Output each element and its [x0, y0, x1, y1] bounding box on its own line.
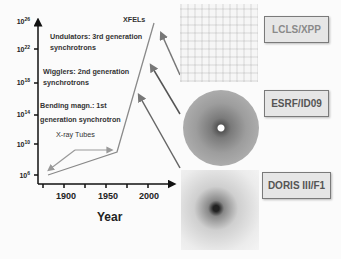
source-label-lcls-xpp: LCLS/XPP — [264, 16, 329, 43]
arrow-lcls-to-curve — [162, 35, 180, 75]
y-tick-1e18: 1018 — [4, 77, 30, 86]
x-tick-1900: 1900 — [56, 191, 76, 201]
annotation-wigglers-line1: Wigglers: 2nd generation — [43, 66, 129, 77]
x-axis-label: Year — [97, 210, 122, 224]
source-label-text: LCLS/XPP — [272, 24, 321, 35]
annotation-bending-line2: generation synchrotron — [40, 113, 121, 127]
arrow-esrf-to-curve — [152, 67, 180, 114]
annotation-undulators-line2: synchrotrons — [50, 42, 142, 53]
lcls-diffraction-pattern — [180, 4, 258, 82]
tick-exponent: 18 — [24, 77, 30, 83]
source-label-text: DORIS III/F1 — [268, 180, 325, 191]
y-tick-1e6: 106 — [4, 170, 30, 179]
x-axis — [38, 184, 172, 188]
annotation-undulators-line1: Undulators: 3rd generation — [50, 31, 142, 42]
y-tick-1e14: 1014 — [4, 109, 30, 118]
y-tick-1e10: 1010 — [4, 139, 30, 148]
esrf-diffraction-pattern — [183, 90, 259, 166]
tick-exponent: 14 — [24, 109, 30, 115]
arrow-doris-to-curve — [140, 97, 180, 168]
x-tick-2000: 2000 — [139, 191, 159, 201]
doris-diffraction-pattern — [181, 170, 259, 250]
annotation-wigglers-line2: synchrotrons — [43, 77, 129, 88]
annotation-wigglers: Wigglers: 2nd generation synchrotrons — [43, 66, 129, 88]
annotation-undulators: Undulators: 3rd generation synchrotrons — [50, 31, 142, 53]
y-tick-1e26: 1026 — [4, 16, 30, 25]
tick-exponent: 6 — [27, 170, 30, 176]
source-label-esrf-id09: ESRF/ID09 — [264, 90, 329, 117]
y-axis — [34, 22, 38, 184]
x-tick-1950: 1950 — [98, 191, 118, 201]
annotation-xfels: XFELs — [123, 14, 145, 25]
y-tick-1e22: 1022 — [4, 44, 30, 53]
source-label-doris-iii-f1: DORIS III/F1 — [262, 172, 331, 199]
tick-exponent: 26 — [24, 16, 30, 22]
annotation-bending-magnets: Bending magn.: 1st generation synchrotro… — [40, 99, 121, 127]
tick-exponent: 22 — [24, 44, 30, 50]
annotation-xray-tubes: X-ray Tubes — [56, 129, 95, 140]
tick-exponent: 10 — [24, 139, 30, 145]
annotation-bending-line1: Bending magn.: 1st — [40, 99, 121, 113]
source-label-text: ESRF/ID09 — [271, 98, 322, 109]
